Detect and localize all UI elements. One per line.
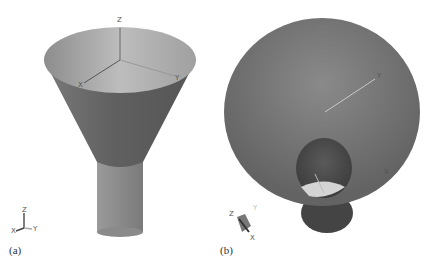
caption-a: (a) (9, 244, 21, 256)
svg-text:Z: Z (229, 210, 234, 218)
svg-text:X: X (11, 227, 16, 235)
axis-triad-icon: Z X Y (11, 206, 38, 235)
axis-x-label: X (384, 168, 389, 176)
axis-z-label: Z (117, 16, 122, 24)
axis-x-label: X (78, 81, 83, 89)
axis-y-label: Y (174, 74, 180, 82)
axis-triad-icon: Z X Y (229, 204, 258, 242)
funnel-side-view: Z X Y Z X Y (0, 0, 217, 266)
stem (97, 160, 143, 236)
svg-text:Z: Z (22, 206, 27, 214)
svg-text:Y: Y (32, 225, 38, 233)
panel-a: Z X Y Z X Y (a) (0, 0, 217, 266)
svg-text:X: X (250, 234, 255, 242)
axis-y-label: Y (376, 72, 382, 80)
svg-text:Y: Y (252, 204, 258, 212)
funnel-top-view: Y X Z X Y (217, 0, 434, 266)
panel-b: Y X Z X Y (b) (217, 0, 434, 266)
caption-b: (b) (220, 244, 233, 256)
